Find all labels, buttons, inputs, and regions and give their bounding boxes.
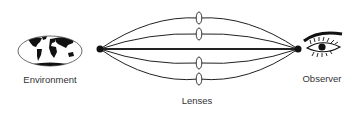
lens-2	[196, 28, 202, 40]
lens-4	[196, 73, 202, 85]
observer-node	[295, 46, 302, 53]
eye-icon	[304, 33, 342, 57]
environment-node	[97, 46, 104, 53]
lens-3	[196, 57, 202, 69]
globe-icon	[18, 36, 82, 67]
light-paths	[100, 18, 298, 80]
environment-label: Environment	[23, 74, 76, 85]
lenses-label: Lenses	[182, 95, 213, 106]
observer-label: Observer	[302, 73, 341, 84]
lens-1	[196, 12, 202, 24]
